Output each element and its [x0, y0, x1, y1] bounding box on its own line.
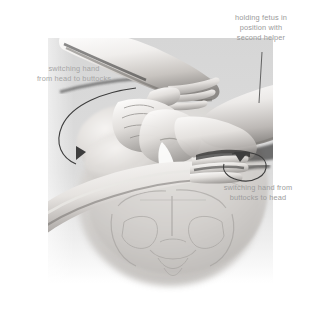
switching-hand-buttocks-to-head-label: switching hand from buttocks to head — [204, 183, 312, 203]
illustration-canvas: holding fetus in position with second he… — [0, 0, 312, 310]
switching-hand-head-to-buttocks-label: switching hand from head to buttocks — [14, 64, 134, 84]
holding-fetus-label: holding fetus in position with second he… — [214, 13, 308, 44]
medical-illustration-svg — [0, 0, 312, 310]
